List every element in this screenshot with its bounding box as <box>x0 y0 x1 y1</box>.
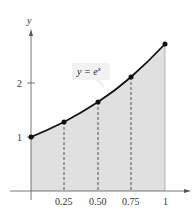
data-point <box>129 75 134 80</box>
callout-pointer <box>95 80 106 90</box>
data-point <box>29 135 34 140</box>
data-point <box>96 100 101 105</box>
y-axis-arrow-icon <box>29 29 33 36</box>
x-axis-arrow-icon <box>184 189 191 193</box>
y-axis-label: y <box>26 15 32 26</box>
x-tick-label-075: 0.75 <box>122 196 140 207</box>
x-tick-label-025: 0.25 <box>55 196 73 207</box>
y-tick-label-2: 2 <box>17 78 22 89</box>
y-tick-label-1: 1 <box>17 132 22 143</box>
x-tick-label-050: 0.50 <box>89 196 107 207</box>
chart: y = ex y 2 1 0.25 0.50 0.75 1 <box>0 0 193 210</box>
data-point <box>62 120 67 125</box>
data-point <box>163 42 168 47</box>
x-tick-label-1: 1 <box>163 196 168 207</box>
